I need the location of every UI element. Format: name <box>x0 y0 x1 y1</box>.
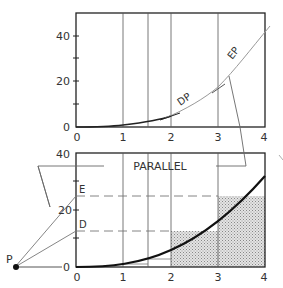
top-plot: 40 20 0 0 1 2 3 4 DP EP <box>56 13 270 144</box>
top-ytick-0: 0 <box>63 121 70 134</box>
parallel-leader-arrow <box>38 166 50 207</box>
bottom-plot: PARALLEL E D P 40 20 0 0 1 2 3 4 <box>6 76 268 284</box>
label-d: D <box>79 219 87 230</box>
label-dp: DP <box>175 91 193 108</box>
bottom-xtick-3: 3 <box>215 271 222 284</box>
bottom-xtick-1: 1 <box>120 271 127 284</box>
label-parallel: PARALLEL <box>133 160 187 173</box>
label-ep: EP <box>225 45 241 62</box>
bottom-ytick-20: 20 <box>58 204 72 217</box>
top-xtick-2: 2 <box>168 131 175 144</box>
top-xtick-0: 0 <box>74 131 81 144</box>
tangent-segment-1 <box>160 113 180 120</box>
label-e: E <box>79 184 85 195</box>
label-p: P <box>6 253 13 266</box>
top-xtick-4: 4 <box>261 131 268 144</box>
tangent-segment-2 <box>212 84 225 93</box>
shaded-area-3-4 <box>218 196 265 267</box>
top-xtick-3: 3 <box>215 131 222 144</box>
margin-mark <box>279 155 283 160</box>
top-ytick-20: 20 <box>56 75 70 88</box>
integral-curve-dark <box>76 116 171 127</box>
bottom-xtick-4: 4 <box>261 271 268 284</box>
top-ytick-40: 40 <box>56 30 70 43</box>
bottom-ytick-0: 0 <box>63 261 70 274</box>
pole-point <box>13 264 19 270</box>
parallel-leader-to-top <box>229 76 240 127</box>
bottom-ytick-40: 40 <box>56 148 70 161</box>
top-xtick-1: 1 <box>120 131 127 144</box>
bottom-xtick-2: 2 <box>168 271 175 284</box>
bottom-xtick-0: 0 <box>74 271 81 284</box>
diagram-canvas: 40 20 0 0 1 2 3 4 DP EP <box>0 0 283 288</box>
